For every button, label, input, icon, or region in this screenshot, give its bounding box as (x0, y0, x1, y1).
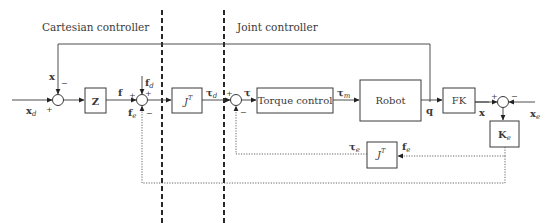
fe-left-label: fe (128, 107, 136, 120)
tau-label: τ (244, 87, 251, 98)
tau-e-label: τe (349, 141, 360, 154)
control-block-diagram: Cartesian controller Joint controller x … (0, 0, 553, 223)
tau-d-label: τd (206, 87, 218, 100)
f-label: f (118, 87, 123, 98)
sum4-right-sign: − (511, 92, 518, 101)
sum1-top-sign: − (61, 79, 68, 88)
xd-label: xd (26, 105, 37, 118)
torque-control-label: Torque control (258, 95, 333, 106)
xe-label: xe (530, 108, 540, 121)
sum2-left-sign: + (129, 91, 136, 100)
sum3-bottom-sign: − (240, 108, 247, 117)
x-feedback-label: x (49, 71, 56, 82)
sum1-left-sign: + (46, 105, 53, 114)
tau-m-label: τm (337, 87, 351, 100)
robot-label: Robot (376, 95, 406, 106)
fe-feedback-dotted-line (398, 147, 505, 156)
z-block-label: Z (92, 96, 99, 107)
summing-junction-3 (231, 95, 242, 106)
fk-label: FK (452, 95, 467, 106)
summing-junction-4 (498, 97, 509, 108)
joint-controller-label: Joint controller (236, 21, 319, 33)
summing-junction-1 (53, 95, 64, 106)
sum2-bottom-sign: − (146, 109, 153, 118)
cartesian-controller-label: Cartesian controller (42, 21, 150, 33)
sum4-left-sign: + (491, 92, 498, 101)
fe-outer-dotted-line (142, 106, 505, 183)
x-output-label: x (479, 107, 486, 118)
q-label: q (426, 105, 433, 116)
jt-feedback-block (367, 142, 397, 168)
fe-right-label: fe (402, 141, 410, 154)
summing-junction-2 (137, 95, 148, 106)
